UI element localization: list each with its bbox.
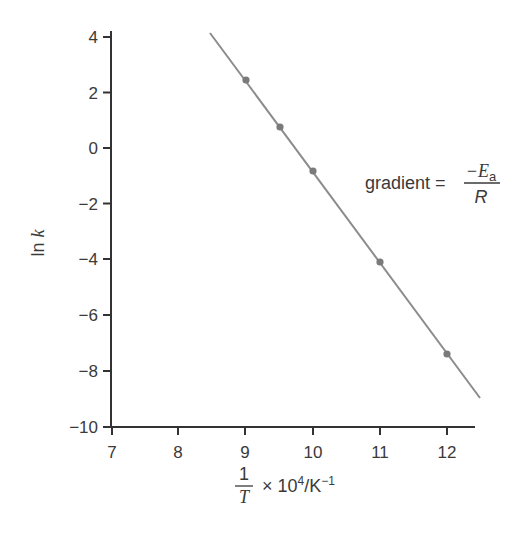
y-tick-label: −8	[79, 362, 98, 381]
x-tick-label: 12	[438, 443, 457, 462]
y-ticks	[103, 37, 111, 427]
svg-text:× 104/K−1: × 104/K−1	[262, 474, 335, 496]
y-tick-label: 4	[89, 28, 98, 47]
x-tick-label: 8	[173, 443, 182, 462]
annotation-numerator: −E	[466, 161, 489, 181]
y-tick-label: −2	[79, 195, 98, 214]
y-title-text: ln	[28, 237, 48, 256]
svg-text:ln k: ln k	[28, 228, 48, 256]
x-title-denominator: T	[239, 487, 251, 507]
fit-line	[210, 33, 480, 398]
data-point	[309, 167, 316, 174]
annotation-denominator: R	[475, 187, 488, 207]
x-tick-label: 10	[304, 443, 323, 462]
data-point	[376, 258, 383, 265]
y-tick-label: −10	[69, 418, 98, 437]
svg-text:−Ea: −Ea	[466, 161, 497, 184]
x-axis-title: 1 T × 104/K−1	[235, 464, 335, 507]
y-tick-label: 2	[89, 84, 98, 103]
data-point	[443, 350, 450, 357]
x-ticks	[112, 427, 447, 435]
x-title-unit: /K	[304, 476, 321, 496]
x-title-multiplier: × 10	[262, 476, 298, 496]
data-point	[242, 76, 249, 83]
y-axis-title: ln k	[28, 228, 48, 256]
gradient-annotation: gradient = −Ea R	[365, 161, 500, 207]
y-tick-label: 0	[89, 139, 98, 158]
y-tick-label: −4	[79, 250, 98, 269]
x-title-unit-exponent: −1	[321, 474, 335, 488]
annotation-prefix: gradient =	[365, 173, 446, 193]
chart-canvas: 4 2 0 −2 −4 −6 −8 −10 7 8 9 10 11 12 ln …	[0, 0, 515, 533]
y-tick-labels: 4 2 0 −2 −4 −6 −8 −10	[69, 28, 98, 437]
x-title-numerator: 1	[239, 464, 249, 484]
x-tick-label: 9	[240, 443, 249, 462]
x-tick-label: 7	[107, 443, 116, 462]
x-tick-label: 11	[371, 443, 389, 462]
x-tick-labels: 7 8 9 10 11 12	[107, 443, 456, 462]
y-title-var: k	[28, 228, 48, 237]
data-point	[276, 123, 283, 130]
annotation-numerator-sub: a	[489, 169, 497, 184]
y-tick-label: −6	[79, 306, 98, 325]
